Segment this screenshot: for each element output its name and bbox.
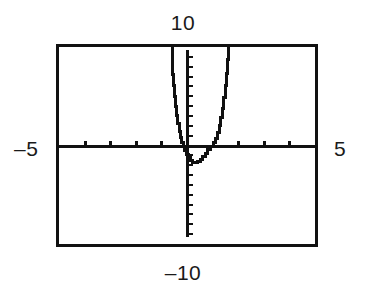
calculator-screenshot: 10 –5 5 –10 bbox=[0, 0, 366, 300]
plot-area bbox=[59, 47, 315, 244]
window-xmin-label: –5 bbox=[14, 138, 38, 159]
window-ymin-label: –10 bbox=[0, 262, 366, 283]
y-axis bbox=[187, 50, 193, 237]
calculator-screen-frame bbox=[56, 44, 318, 247]
window-ymax-label: 10 bbox=[0, 12, 366, 33]
window-xmax-label: 5 bbox=[334, 138, 346, 159]
